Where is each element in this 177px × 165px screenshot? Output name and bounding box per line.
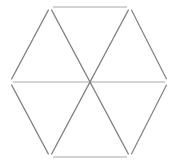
- hexagon-figure: [0, 0, 177, 165]
- segment-edge-upper-right: [131, 10, 166, 80]
- segment-layer: [11, 7, 166, 157]
- segment-edge-lower-right: [131, 85, 166, 155]
- segment-edge-upper-left: [11, 10, 48, 80]
- hexagon-svg: [0, 0, 177, 165]
- segment-edge-lower-left: [11, 85, 48, 155]
